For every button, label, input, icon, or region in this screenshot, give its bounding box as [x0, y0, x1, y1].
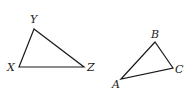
- vertex-label-z: Z: [86, 61, 95, 74]
- triangle-abc: B A C: [111, 28, 184, 91]
- vertex-label-a: A: [111, 78, 120, 91]
- vertex-label-x: X: [6, 61, 16, 74]
- triangle-xyz-shape: [19, 29, 84, 67]
- triangle-xyz: Y X Z: [6, 13, 95, 74]
- vertex-label-c: C: [175, 63, 184, 76]
- vertex-label-b: B: [150, 28, 159, 41]
- vertex-label-y: Y: [30, 13, 39, 26]
- diagram-canvas: Y X Z B A C: [0, 0, 194, 94]
- triangles-diagram: Y X Z B A C: [0, 0, 194, 94]
- triangle-abc-shape: [121, 42, 173, 79]
